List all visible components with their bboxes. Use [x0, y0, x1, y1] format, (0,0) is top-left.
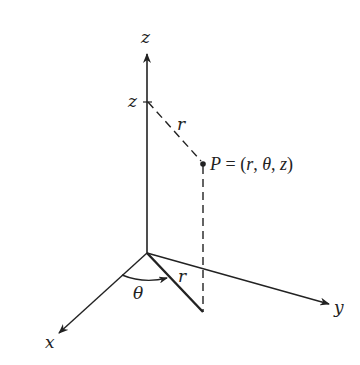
point-equation-label: P = (r, θ, z) — [209, 154, 293, 175]
z-axis-label: z — [140, 27, 151, 47]
z-height-label: z — [127, 91, 138, 111]
r-dashed-line — [148, 102, 201, 161]
r-upper-label: r — [177, 114, 186, 134]
cylindrical-coordinates-diagram: z z r P = (r, θ, z) r θ y x — [0, 0, 360, 365]
theta-arc — [122, 275, 167, 280]
r-lower-label: r — [178, 266, 187, 286]
y-axis — [147, 253, 329, 304]
y-axis-label: y — [333, 297, 344, 317]
r-projection-segment — [147, 253, 203, 312]
x-axis-label: x — [45, 332, 55, 352]
theta-label: θ — [133, 283, 143, 303]
point-p — [200, 161, 206, 167]
